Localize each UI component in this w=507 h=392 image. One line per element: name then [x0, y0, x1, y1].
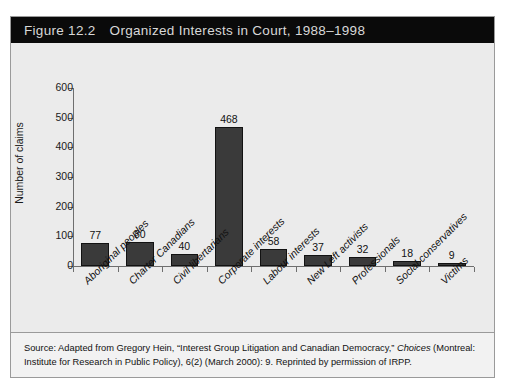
y-tick-label: 600: [33, 81, 73, 93]
x-tick-mark: [385, 267, 386, 272]
y-tick-label-wrap: 100: [11, 236, 73, 237]
x-tick-mark: [429, 267, 430, 272]
y-axis-title: Number of claims: [13, 103, 25, 223]
figure-container: Figure 12.2 Organized Interests in Court…: [10, 16, 495, 378]
source-note-publication: Choices: [397, 343, 431, 353]
y-tick-label: 300: [33, 170, 73, 182]
y-tick-label: 200: [33, 200, 73, 212]
bar-value-label: 468: [209, 113, 249, 125]
y-tick-label-wrap: 0: [11, 266, 73, 267]
source-note-part1: Source: Adapted from Gregory Hein, “Inte…: [24, 343, 397, 353]
figure-number: Figure 12.2: [24, 23, 96, 38]
y-tick-label: 0: [33, 259, 73, 271]
x-tick-mark: [251, 267, 252, 272]
x-tick-mark: [73, 267, 74, 272]
x-tick-mark: [162, 267, 163, 272]
x-tick-mark: [118, 267, 119, 272]
x-tick-mark: [296, 267, 297, 272]
bar-value-label: 77: [75, 229, 115, 241]
y-tick-label: 400: [33, 140, 73, 152]
y-tick-label-wrap: 600: [11, 88, 73, 89]
y-tick-label: 500: [33, 111, 73, 123]
figure-title-bar: Figure 12.2 Organized Interests in Court…: [11, 17, 494, 43]
y-axis-line: [73, 88, 74, 267]
y-tick-label-wrap: 300: [11, 177, 73, 178]
source-note: Source: Adapted from Gregory Hein, “Inte…: [11, 333, 494, 377]
y-tick-label-wrap: 500: [11, 118, 73, 119]
figure-title: Organized Interests in Court, 1988–1998: [110, 23, 366, 38]
chart-plot-area: Number of claims 0100200300400500600 778…: [11, 43, 494, 333]
x-tick-mark: [340, 267, 341, 272]
y-tick-label-wrap: 400: [11, 147, 73, 148]
y-tick-label-wrap: 200: [11, 207, 73, 208]
x-tick-mark: [207, 267, 208, 272]
x-tick-mark: [474, 267, 475, 272]
y-tick-label: 100: [33, 229, 73, 241]
